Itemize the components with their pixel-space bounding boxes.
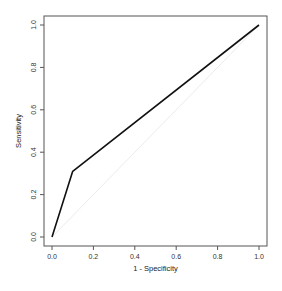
x-tick-label: 1.0 bbox=[254, 253, 264, 260]
y-tick-label: 0.6 bbox=[30, 105, 37, 115]
x-axis: 0.00.20.40.60.81.0 bbox=[47, 246, 264, 260]
y-axis: 0.00.20.40.60.81.0 bbox=[30, 20, 44, 242]
reference-diagonal-line bbox=[52, 25, 259, 237]
x-tick-label: 0.4 bbox=[130, 253, 140, 260]
x-tick-label: 0.2 bbox=[89, 253, 99, 260]
y-tick-label: 0.8 bbox=[30, 62, 37, 72]
x-tick-label: 0.6 bbox=[171, 253, 181, 260]
y-tick-label: 0.0 bbox=[30, 232, 37, 242]
roc-chart: 0.00.20.40.60.81.0 0.00.20.40.60.81.0 1 … bbox=[0, 0, 282, 291]
y-tick-label: 0.4 bbox=[30, 147, 37, 157]
y-axis-title: Sensitivity bbox=[14, 114, 23, 148]
series-layer bbox=[52, 25, 259, 237]
x-tick-label: 0.0 bbox=[47, 253, 57, 260]
y-tick-label: 1.0 bbox=[30, 20, 37, 30]
y-tick-label: 0.2 bbox=[30, 190, 37, 200]
x-axis-title: 1 - Specificity bbox=[133, 264, 178, 273]
x-tick-label: 0.8 bbox=[213, 253, 223, 260]
